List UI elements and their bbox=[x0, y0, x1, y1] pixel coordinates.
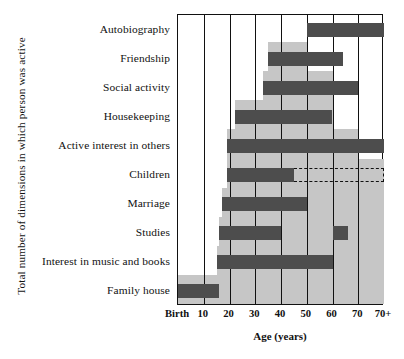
category-label: Housekeeping bbox=[104, 110, 170, 122]
staircase-step bbox=[333, 129, 359, 304]
bar-segment bbox=[235, 110, 333, 124]
x-tick-label: 70 bbox=[352, 308, 363, 319]
category-label: Social activity bbox=[103, 81, 170, 93]
gridline bbox=[204, 15, 205, 304]
bar-segment bbox=[307, 23, 384, 37]
bar-segment bbox=[222, 197, 307, 211]
category-label-group: AutobiographyFriendshipSocial activityHo… bbox=[0, 14, 174, 305]
category-label: Friendship bbox=[120, 52, 170, 64]
staircase-step bbox=[227, 129, 235, 304]
bar-segment bbox=[263, 81, 358, 95]
bar-segment bbox=[333, 226, 348, 240]
category-label: Active interest in others bbox=[58, 139, 170, 151]
bar-segment bbox=[268, 52, 343, 66]
x-axis-title: Age (years) bbox=[177, 330, 383, 342]
bar-segment-dashed bbox=[294, 168, 384, 182]
bar-segment bbox=[219, 226, 281, 240]
category-label: Family house bbox=[107, 284, 170, 296]
category-label: Interest in music and books bbox=[42, 255, 170, 267]
category-label: Marriage bbox=[127, 197, 170, 209]
chart-figure: Total number of dimensions in which pers… bbox=[0, 0, 404, 359]
x-tick-label: 10 bbox=[197, 308, 208, 319]
x-tick-label: 30 bbox=[249, 308, 260, 319]
x-tick-label: 60 bbox=[326, 308, 337, 319]
x-tick-label: 40 bbox=[275, 308, 286, 319]
bar-segment bbox=[227, 139, 384, 153]
category-label: Autobiography bbox=[100, 23, 170, 35]
bar-segment bbox=[178, 284, 219, 298]
category-label: Studies bbox=[136, 226, 170, 238]
x-axis-tick-label-group: Birth1020304050607070+ bbox=[177, 308, 383, 324]
gridline bbox=[358, 15, 359, 304]
bar-segment bbox=[227, 168, 294, 182]
x-tick-label: 50 bbox=[300, 308, 311, 319]
x-tick-label: 20 bbox=[223, 308, 234, 319]
x-tick-label: Birth bbox=[165, 308, 189, 319]
category-label: Children bbox=[129, 168, 170, 180]
x-tick-label: 70+ bbox=[375, 308, 392, 319]
bar-segment bbox=[217, 255, 333, 269]
plot-area bbox=[177, 14, 383, 305]
